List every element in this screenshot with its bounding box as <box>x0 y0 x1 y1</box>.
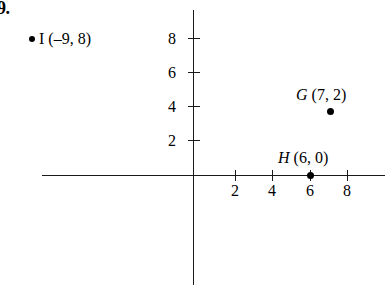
y-axis-tick-6 <box>188 72 200 73</box>
point-i-text: I (–9, 8) <box>39 30 91 47</box>
problem-number: 9. <box>0 0 10 19</box>
y-axis-tick-2 <box>188 140 200 141</box>
point-i-label: I (–9, 8) <box>29 30 91 47</box>
point-g-dot <box>327 108 334 115</box>
point-g-label: G (7, 2) <box>296 86 346 103</box>
y-axis-label-4: 4 <box>152 99 176 115</box>
x-axis-label-4: 4 <box>260 183 284 199</box>
point-h-label: H (6, 0) <box>278 149 328 166</box>
x-axis-label-2: 2 <box>223 183 247 199</box>
y-axis <box>193 10 194 285</box>
x-axis-tick-2 <box>235 170 236 181</box>
y-axis-label-2: 2 <box>152 133 176 149</box>
y-axis-tick-8 <box>188 38 200 39</box>
coordinate-plane-figure: 9. 2 4 6 8 2 4 6 8 G (7, 2) H (6, 0) I (… <box>0 0 391 290</box>
point-h-coords: (6, 0) <box>290 149 329 166</box>
y-axis-label-8: 8 <box>152 31 176 47</box>
x-axis-tick-8 <box>347 170 348 181</box>
y-axis-label-6: 6 <box>152 65 176 81</box>
point-g-letter: G <box>296 86 308 103</box>
point-h-dot <box>307 172 314 179</box>
x-axis-tick-4 <box>272 170 273 181</box>
x-axis-label-8: 8 <box>335 183 359 199</box>
y-axis-tick-4 <box>188 106 200 107</box>
point-i-dot <box>29 36 35 42</box>
x-axis-label-6: 6 <box>298 183 322 199</box>
x-axis <box>42 175 385 176</box>
point-g-coords: (7, 2) <box>308 86 347 103</box>
point-i-coords: (–9, 8) <box>44 30 91 47</box>
point-h-letter: H <box>278 149 290 166</box>
